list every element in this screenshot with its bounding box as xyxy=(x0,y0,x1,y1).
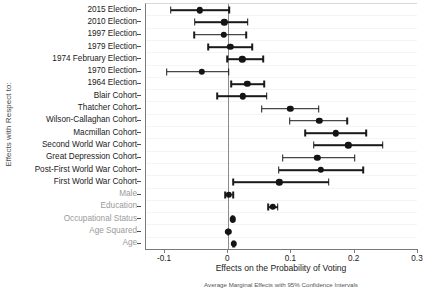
point-estimate-marker xyxy=(269,204,275,210)
gridline xyxy=(146,188,417,189)
gridline xyxy=(146,126,417,127)
y-axis-tick-label: Wilson-Callaghan Cohort xyxy=(46,114,137,125)
x-axis-tick-label: 0 xyxy=(225,254,230,263)
confidence-interval-cap xyxy=(277,203,279,210)
point-estimate-marker xyxy=(229,216,235,222)
y-axis-tick-label: Education xyxy=(101,200,137,211)
y-axis-tick-mark xyxy=(137,144,141,145)
confidence-interval-cap xyxy=(289,117,291,124)
gridline xyxy=(146,151,417,152)
y-axis-tick-label: 1997 Election xyxy=(87,28,137,39)
y-axis-category-labels: 2015 Election2010 Election1997 Election1… xyxy=(16,3,141,249)
point-estimate-marker xyxy=(221,19,227,25)
y-axis-tick-label: Male xyxy=(119,188,137,199)
confidence-interval-cap xyxy=(194,19,196,26)
confidence-interval-cap xyxy=(228,68,230,75)
y-axis-tick-label: Age Squared xyxy=(89,225,137,236)
confidence-interval-cap xyxy=(305,130,307,137)
x-axis-tick-mark xyxy=(227,249,228,253)
gridline xyxy=(146,237,417,238)
x-axis-tick-mark xyxy=(354,249,355,253)
y-axis-tick-mark xyxy=(137,194,141,195)
confidence-interval-cap xyxy=(207,44,209,51)
point-estimate-marker xyxy=(225,228,231,234)
plot-panel xyxy=(145,3,417,249)
confidence-interval-cap xyxy=(313,142,315,149)
y-axis-tick-mark xyxy=(137,58,141,59)
point-estimate-marker xyxy=(314,155,320,161)
point-estimate-marker xyxy=(287,105,293,111)
point-estimate-marker xyxy=(244,81,250,87)
x-axis-tick-mark xyxy=(164,249,165,253)
confidence-interval-cap xyxy=(247,19,249,26)
gridline xyxy=(146,138,417,139)
confidence-interval-cap xyxy=(262,56,264,63)
y-axis-tick-mark xyxy=(137,120,141,121)
point-estimate-marker xyxy=(227,44,233,50)
point-estimate-marker xyxy=(197,7,203,13)
gridline xyxy=(146,175,417,176)
confidence-interval-cap xyxy=(346,117,348,124)
confidence-interval-cap xyxy=(226,56,228,63)
x-axis-title: Effects on the Probability of Voting xyxy=(145,263,417,273)
point-estimate-marker xyxy=(317,167,323,173)
y-axis-tick-mark xyxy=(137,95,141,96)
point-estimate-marker xyxy=(198,68,204,74)
confidence-interval-cap xyxy=(170,7,172,14)
confidence-interval-cap xyxy=(232,179,234,186)
y-axis-tick-label: Post-First World War Cohort xyxy=(35,164,137,175)
confidence-interval-cap xyxy=(229,7,231,14)
y-axis-tick-label: Blair Cohort xyxy=(94,90,137,101)
y-axis-tick-label: 1970 Election xyxy=(87,65,137,76)
x-axis: -0.100.10.20.3 xyxy=(145,249,417,250)
y-axis-tick-mark xyxy=(137,21,141,22)
y-axis-tick-label: 1979 Election xyxy=(87,41,137,52)
y-axis-tick-mark xyxy=(137,132,141,133)
confidence-interval-cap xyxy=(382,142,384,149)
confidence-interval-cap xyxy=(193,31,195,38)
gridline xyxy=(146,224,417,225)
y-axis-tick-label: Macmillan Cohort xyxy=(73,127,137,138)
y-axis-tick-mark xyxy=(137,206,141,207)
gridline xyxy=(146,40,417,41)
gridline xyxy=(146,52,417,53)
y-axis-tick-label: Age xyxy=(122,237,137,248)
gridline xyxy=(146,15,417,16)
gridline xyxy=(146,65,417,66)
confidence-interval-cap xyxy=(263,80,265,87)
y-axis-tick-label: Great Depression Cohort xyxy=(46,151,137,162)
y-axis-tick-label: Thatcher Cohort xyxy=(78,102,137,113)
confidence-interval-cap xyxy=(261,105,263,112)
y-axis-tick-label: 1974 February Election xyxy=(52,53,137,64)
y-axis-tick-label: Second World War Cohort xyxy=(42,139,137,150)
y-axis-tick-mark xyxy=(137,9,141,10)
y-axis-title-text: Effects with Respect to: xyxy=(4,82,13,167)
confidence-interval-cap xyxy=(231,80,233,87)
confidence-interval-cap xyxy=(245,31,247,38)
y-axis-title: Effects with Respect to: xyxy=(0,0,16,248)
x-axis-tick-mark xyxy=(417,249,418,253)
point-estimate-marker xyxy=(239,56,245,62)
y-axis-tick-label: First World War Cohort xyxy=(54,176,137,187)
chart-caption: Average Marginal Effects with 95% Confid… xyxy=(145,281,417,288)
confidence-interval-cap xyxy=(365,130,367,137)
confidence-interval-cap xyxy=(362,167,364,174)
y-axis-tick-mark xyxy=(137,218,141,219)
confidence-interval-cap xyxy=(282,154,284,161)
confidence-interval-cap xyxy=(217,93,219,100)
y-axis-tick-label: Occupational Status xyxy=(64,213,137,224)
gridline xyxy=(146,114,417,115)
zero-reference-line xyxy=(228,4,229,249)
gridline xyxy=(146,212,417,213)
point-estimate-marker xyxy=(226,191,232,197)
y-axis-tick-label: 1964 Election xyxy=(87,77,137,88)
point-estimate-marker xyxy=(316,118,322,124)
gridline xyxy=(146,28,417,29)
confidence-interval-cap xyxy=(318,105,320,112)
point-estimate-marker xyxy=(231,241,237,247)
x-axis-tick-mark xyxy=(290,249,291,253)
y-axis-tick-mark xyxy=(137,83,141,84)
gridline xyxy=(146,89,417,90)
confidence-interval-cap xyxy=(251,44,253,51)
x-axis-tick-label: 0.1 xyxy=(285,254,296,263)
